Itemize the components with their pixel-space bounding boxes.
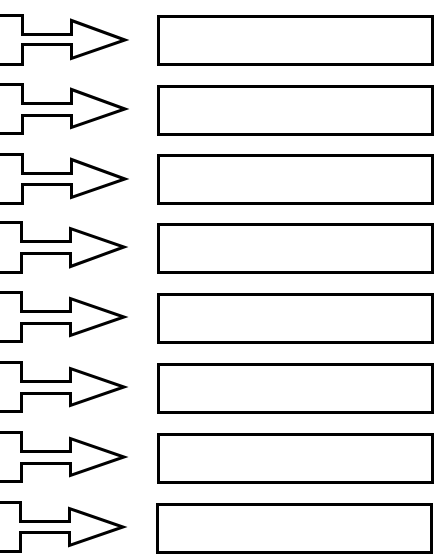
answer-box-4[interactable]: [157, 223, 434, 274]
bracket-right-arrow-icon: [0, 488, 140, 558]
bracket-right-arrow-icon: [0, 70, 140, 140]
answer-box-text: [160, 296, 439, 341]
answer-box-6[interactable]: [157, 363, 434, 414]
diagram-row-7: [0, 418, 445, 488]
answer-box-text: [160, 18, 439, 63]
answer-box-1[interactable]: [157, 15, 434, 66]
diagram-row-4: [0, 208, 445, 278]
bracket-right-arrow-icon: [0, 0, 140, 70]
answer-box-text: [159, 506, 438, 551]
answer-box-8[interactable]: [156, 503, 433, 554]
answer-box-2[interactable]: [157, 85, 434, 136]
diagram-row-8: [0, 488, 445, 558]
bracket-right-arrow-icon: [0, 418, 140, 488]
answer-box-text: [160, 366, 439, 411]
bracket-right-arrow-icon: [0, 348, 140, 418]
bracket-right-arrow-icon: [0, 139, 140, 209]
diagram: [0, 0, 445, 559]
diagram-row-2: [0, 70, 445, 140]
bracket-right-arrow-icon: [0, 278, 140, 348]
diagram-row-5: [0, 278, 445, 348]
answer-box-7[interactable]: [157, 433, 434, 484]
answer-box-text: [160, 436, 439, 481]
answer-box-5[interactable]: [157, 293, 434, 344]
diagram-row-1: [0, 0, 445, 70]
answer-box-text: [160, 157, 439, 202]
answer-box-3[interactable]: [157, 154, 434, 205]
answer-box-text: [160, 88, 439, 133]
bracket-right-arrow-icon: [0, 208, 140, 278]
diagram-row-6: [0, 348, 445, 418]
answer-box-text: [160, 226, 439, 271]
diagram-row-3: [0, 139, 445, 209]
